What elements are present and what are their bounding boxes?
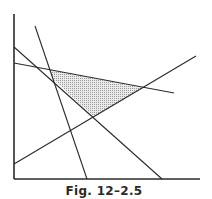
rising-line: [14, 56, 196, 164]
figure-caption: Fig. 12–2.5: [0, 184, 208, 198]
figure-canvas: [0, 0, 212, 199]
